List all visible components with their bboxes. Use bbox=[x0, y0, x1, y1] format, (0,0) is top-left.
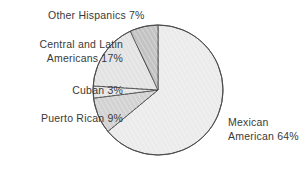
pie-label-cuban: Cuban 3% bbox=[0, 84, 123, 98]
pie-label-mexican-american-line2: American 64% bbox=[228, 130, 299, 144]
pie-label-puerto-rican: Puerto Rican 9% bbox=[0, 112, 123, 126]
pie-label-central-and-latin-americans-line2: Americans 17% bbox=[0, 52, 123, 66]
pie-label-cuban-line1: Cuban 3% bbox=[0, 84, 123, 98]
pie-label-other-hispanics-line1: Other Hispanics 7% bbox=[48, 9, 145, 23]
pie-label-mexican-american: Mexican American 64% bbox=[228, 116, 299, 143]
pie-label-central-and-latin-americans: Central and Latin Americans 17% bbox=[0, 38, 123, 65]
pie-chart-figure: Other Hispanics 7% Central and Latin Ame… bbox=[0, 0, 299, 170]
pie-label-puerto-rican-line1: Puerto Rican 9% bbox=[0, 112, 123, 126]
pie-label-mexican-american-line1: Mexican bbox=[228, 116, 299, 130]
pie-label-central-and-latin-americans-line1: Central and Latin bbox=[0, 38, 123, 52]
pie-label-other-hispanics: Other Hispanics 7% bbox=[48, 9, 145, 23]
